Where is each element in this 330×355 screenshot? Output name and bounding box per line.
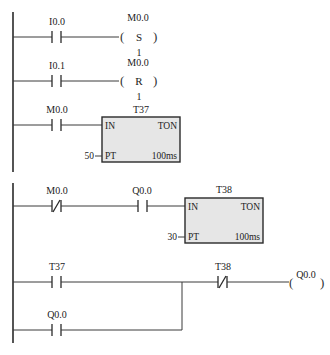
contact-label: Q0.0 xyxy=(132,185,152,196)
timer-name: T38 xyxy=(216,184,232,195)
no-contact-icon xyxy=(52,119,61,131)
contact-label: Q0.0 xyxy=(47,309,67,320)
no-contact-icon xyxy=(138,200,147,212)
coil-count: 1 xyxy=(137,91,142,102)
timer-preset-value: 50 xyxy=(85,151,95,161)
rung-5: T37 Q0.0 T38 ( Q0.0 ) xyxy=(13,261,324,336)
timer-base-label: 100ms xyxy=(235,232,261,242)
svg-text:(: ( xyxy=(289,275,293,290)
contact-label: M0.0 xyxy=(46,185,67,196)
timer-base-label: 100ms xyxy=(152,151,178,161)
timer-in-label: IN xyxy=(188,202,198,212)
timer-pt-label: PT xyxy=(188,232,199,242)
no-contact-icon xyxy=(52,31,61,43)
rung-2: I0.1 M0.0 ( R ) 1 xyxy=(13,57,157,102)
no-contact-icon xyxy=(52,75,61,87)
rung-1: I0.0 M0.0 ( S ) 1 xyxy=(13,12,157,58)
output-coil-icon: ( Q0.0 ) xyxy=(289,269,324,290)
svg-text:R: R xyxy=(135,75,143,87)
timer-in-label: IN xyxy=(105,121,115,131)
svg-text:): ) xyxy=(320,275,324,290)
svg-text:): ) xyxy=(153,73,157,88)
timer-type-label: TON xyxy=(241,202,260,212)
no-contact-icon xyxy=(52,276,61,288)
contact-label: I0.0 xyxy=(49,16,65,27)
set-coil-icon: ( S ) xyxy=(120,29,157,44)
timer-preset-value: 30 xyxy=(168,232,178,242)
rung-3: M0.0 T37 IN TON PT 100ms 50 xyxy=(13,104,180,162)
timer-pt-label: PT xyxy=(105,151,116,161)
svg-text:S: S xyxy=(136,31,142,43)
contact-label: I0.1 xyxy=(49,60,65,71)
contact-label: T37 xyxy=(49,261,65,272)
contact-label: M0.0 xyxy=(46,104,67,115)
nc-contact-icon xyxy=(52,200,61,212)
rung-4: M0.0 Q0.0 T38 IN TON PT 100ms 30 xyxy=(13,184,263,243)
ladder-diagram: I0.0 M0.0 ( S ) 1 I0.1 M0.0 ( R ) 1 xyxy=(0,0,330,355)
svg-text:): ) xyxy=(153,29,157,44)
svg-text:(: ( xyxy=(120,29,124,44)
contact-label: T38 xyxy=(215,261,231,272)
timer-type-label: TON xyxy=(158,121,177,131)
reset-coil-icon: ( R ) xyxy=(120,73,157,88)
coil-label: M0.0 xyxy=(127,57,148,68)
timer-name: T37 xyxy=(133,104,149,115)
nc-contact-icon xyxy=(218,276,227,288)
coil-label: M0.0 xyxy=(127,12,148,23)
coil-label: Q0.0 xyxy=(296,269,316,280)
svg-text:(: ( xyxy=(120,73,124,88)
no-contact-icon xyxy=(52,324,61,336)
